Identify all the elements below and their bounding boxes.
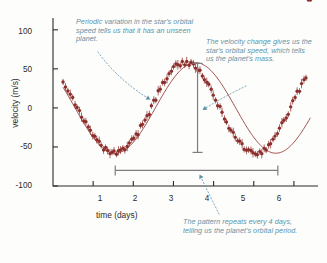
y-axis-label: velocity (m/s): [10, 68, 20, 138]
y-tick-label: 100: [6, 27, 32, 36]
annotation-orbital-period: The pattern repeats every 4 days, tellin…: [183, 218, 313, 235]
y-tick-label: -50: [6, 142, 32, 151]
annotation-periodic-variation: Periodic variation in the star's orbital…: [76, 18, 196, 44]
x-tick-label: 3: [164, 194, 178, 203]
radial-velocity-figure: 100 50 0 -50 -100 1 2 3 4 5 6 time (days…: [0, 0, 327, 263]
annotation-leader-lines: [98, 52, 246, 214]
x-axis-label: time (days): [96, 210, 137, 220]
y-tick-label: -100: [6, 181, 32, 190]
x-tick-label: 6: [272, 194, 286, 203]
x-tick-label: 2: [128, 194, 142, 203]
x-tick-label: 4: [200, 194, 214, 203]
x-tick-label: 5: [236, 194, 250, 203]
annotation-velocity-change: The velocity change gives us the star's …: [206, 38, 314, 64]
measurement-bars: [115, 63, 278, 175]
x-tick-label: 1: [93, 194, 107, 203]
